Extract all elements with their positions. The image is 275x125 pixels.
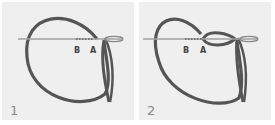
point-a-label: A	[90, 46, 96, 55]
step-1-panel: B A 1	[2, 2, 134, 120]
point-b-label: B	[183, 46, 189, 55]
point-b-label: B	[74, 46, 80, 55]
step-number: 1	[10, 103, 18, 118]
thread-loop-illustration-2	[139, 2, 271, 120]
step-2-panel: B A 2	[139, 2, 271, 120]
step-number: 2	[147, 103, 155, 118]
point-a-label: A	[200, 46, 206, 55]
thread-loop-illustration-1	[2, 2, 134, 120]
